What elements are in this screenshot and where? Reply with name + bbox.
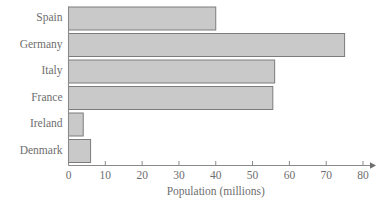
category-label-ireland: Ireland bbox=[30, 117, 63, 129]
bars-group bbox=[69, 7, 345, 163]
category-label-france: France bbox=[31, 91, 62, 103]
x-tick-label-0: 0 bbox=[66, 169, 72, 181]
x-axis-ticks-group: 01020304050607080 bbox=[66, 161, 369, 181]
x-tick-label-60: 60 bbox=[284, 169, 296, 181]
x-axis-title: Population (millions) bbox=[167, 185, 265, 198]
x-tick-label-70: 70 bbox=[320, 169, 332, 181]
bar-germany bbox=[69, 34, 345, 57]
category-label-denmark: Denmark bbox=[20, 144, 63, 156]
category-labels-group: SpainGermanyItalyFranceIrelandDenmark bbox=[20, 11, 63, 156]
category-label-germany: Germany bbox=[20, 38, 63, 51]
category-label-spain: Spain bbox=[36, 11, 62, 24]
bar-italy bbox=[69, 60, 275, 83]
bar-denmark bbox=[69, 140, 91, 163]
x-tick-label-20: 20 bbox=[136, 169, 148, 181]
bar-ireland bbox=[69, 113, 84, 136]
x-tick-label-10: 10 bbox=[100, 169, 112, 181]
x-axis-arrowhead bbox=[370, 162, 376, 168]
x-tick-label-40: 40 bbox=[210, 169, 222, 181]
x-tick-label-30: 30 bbox=[173, 169, 185, 181]
bar-chart-figure: 01020304050607080 SpainGermanyItalyFranc… bbox=[0, 0, 390, 204]
x-tick-label-50: 50 bbox=[247, 169, 259, 181]
category-label-italy: Italy bbox=[41, 64, 62, 77]
bar-france bbox=[69, 87, 273, 110]
bar-spain bbox=[69, 7, 216, 30]
x-tick-label-80: 80 bbox=[357, 169, 369, 181]
chart-canvas: 01020304050607080 SpainGermanyItalyFranc… bbox=[0, 0, 390, 204]
